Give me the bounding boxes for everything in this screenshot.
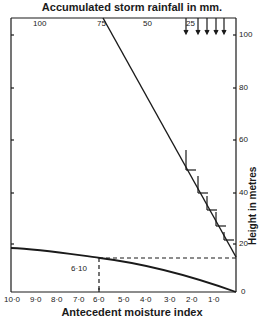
x-tick-9: 9·0 xyxy=(30,295,42,304)
chart-canvas xyxy=(0,0,264,321)
y-axis-title: Height in metres xyxy=(247,167,258,245)
x-axis-title: Antecedent moisture index xyxy=(0,306,264,318)
top-tick-75: 75 xyxy=(97,19,106,28)
x-tick-8: 8·0 xyxy=(51,295,63,304)
x-tick-3: 3·0 xyxy=(164,295,176,304)
x-tick-4: 4·0 xyxy=(140,295,152,304)
top-tick-25: 25 xyxy=(186,19,195,28)
y-tick-100: 100 xyxy=(239,30,252,39)
x-tick-6: 6·0 xyxy=(93,295,105,304)
x-tick-5: 5·0 xyxy=(118,295,130,304)
x-tick-1: 1·0 xyxy=(208,295,220,304)
top-tick-100: 100 xyxy=(33,19,46,28)
x-tick-2: 2·0 xyxy=(186,295,198,304)
moisture-curve xyxy=(11,248,236,292)
step-arrows xyxy=(186,150,234,240)
x-tick-10: 10·0 xyxy=(4,295,20,304)
y-tick-80: 80 xyxy=(239,83,248,92)
x-tick-7: 7·0 xyxy=(73,295,85,304)
y-tick-60: 60 xyxy=(239,135,248,144)
top-tick-50: 50 xyxy=(143,19,152,28)
y-tick-0: 0 xyxy=(241,287,245,296)
top-axis-title: Accumulated storm rainfall in mm. xyxy=(0,1,264,13)
annotation-6-10: 6·10 xyxy=(71,264,87,273)
